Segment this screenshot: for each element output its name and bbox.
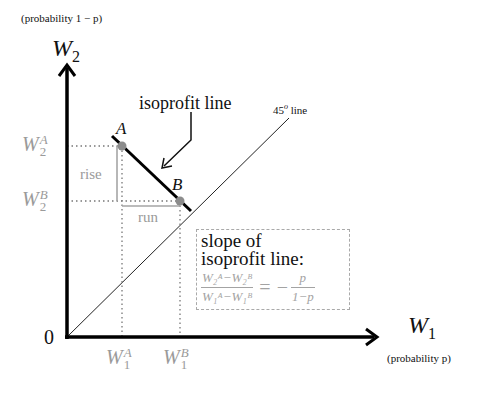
slope-lhs-numerator: W₂ᴬ−W₂ᴮ: [201, 270, 253, 286]
x-axis-label: W1: [408, 313, 436, 342]
y-tick-w2a-base: W: [22, 133, 39, 155]
point-a: [118, 142, 127, 151]
line-45-suffix: line: [288, 104, 307, 116]
fraction-bar: [201, 287, 253, 288]
fraction-bar: [291, 287, 315, 288]
point-b: [176, 197, 185, 206]
x-axis-label-base: W: [408, 312, 428, 338]
line-45-label: 45o line: [273, 103, 307, 116]
rise-label: rise: [80, 167, 102, 182]
slope-title: slope of isoprofit line:: [201, 232, 304, 268]
point-b-label: B: [172, 176, 182, 193]
isoprofit-line-label: isoprofit line: [139, 94, 232, 112]
x-axis-probability-note: (probability p): [387, 353, 451, 364]
y-tick-w2b: WB2: [22, 189, 48, 213]
minus-sign: −: [277, 276, 288, 299]
slope-rhs-denominator: 1−p: [291, 289, 315, 305]
slope-formula: W₂ᴬ−W₂ᴮ W₁ᴬ−W₁ᴮ = − p 1−p: [201, 270, 315, 305]
y-axis-label: W2: [52, 36, 80, 65]
slope-lhs-fraction: W₂ᴬ−W₂ᴮ W₁ᴬ−W₁ᴮ: [201, 270, 253, 305]
x-tick-w1b-base: W: [163, 346, 180, 368]
slope-annotation-box: slope of isoprofit line: W₂ᴬ−W₂ᴮ W₁ᴬ−W₁ᴮ…: [196, 229, 350, 310]
isoprofit-pointer-arrow: [164, 112, 191, 166]
x-tick-w1b: WB1: [163, 347, 189, 371]
line-45-number: 45: [273, 104, 284, 116]
y-tick-w2b-base: W: [22, 188, 39, 210]
x-tick-w1b-sub: 1: [181, 359, 189, 371]
y-tick-w2b-sub: 2: [40, 201, 48, 213]
equals-sign: =: [259, 276, 270, 299]
origin-label: 0: [44, 327, 54, 347]
x-tick-w1a-base: W: [106, 346, 123, 368]
y-axis-label-base: W: [52, 35, 72, 61]
y-tick-w2a-sub: 2: [40, 146, 48, 158]
x-axis-label-subscript: 1: [428, 325, 436, 342]
slope-lhs-denominator: W₁ᴬ−W₁ᴮ: [201, 289, 253, 305]
slope-rhs-numerator: p: [299, 270, 308, 286]
y-axis-probability-note: (probability 1 − p): [21, 13, 102, 24]
y-tick-w2a: WA2: [22, 134, 48, 158]
x-tick-w1a: WA1: [106, 347, 132, 371]
slope-rhs-fraction: p 1−p: [291, 270, 315, 305]
slope-title-line2: isoprofit line:: [201, 250, 304, 268]
point-a-label: A: [116, 120, 126, 137]
run-label: run: [138, 210, 158, 225]
x-tick-w1a-sub: 1: [124, 359, 132, 371]
y-axis-label-subscript: 2: [72, 48, 80, 65]
